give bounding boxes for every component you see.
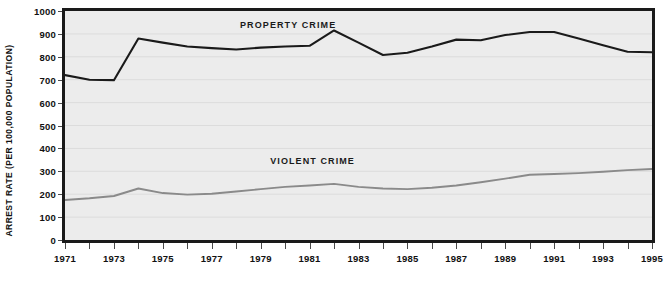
x-tick-mark	[359, 243, 360, 249]
crime-arrest-rate-chart: ARREST RATE (PER 100,000 POPULATION) 010…	[0, 0, 668, 281]
y-tick-label: 900	[20, 28, 56, 39]
x-tick-label: 1973	[103, 253, 125, 264]
plot-frame: PROPERTY CRIMEVIOLENT CRIME	[62, 8, 655, 243]
y-tick-label: 1000	[20, 6, 56, 17]
y-tick-label: 100	[20, 212, 56, 223]
x-tick-mark	[481, 243, 482, 249]
x-tick-mark	[505, 243, 506, 249]
series-line	[65, 30, 652, 80]
x-tick-mark	[163, 243, 164, 249]
x-tick-label: 1975	[152, 253, 174, 264]
x-tick-mark	[554, 243, 555, 249]
x-tick-mark	[114, 243, 115, 249]
x-tick-mark	[65, 243, 66, 249]
x-tick-label: 1987	[445, 253, 467, 264]
x-tick-mark	[310, 243, 311, 249]
x-tick-label: 1981	[299, 253, 321, 264]
x-tick-mark	[89, 243, 90, 249]
y-tick-label: 300	[20, 166, 56, 177]
y-tick-label: 200	[20, 189, 56, 200]
y-tick-label: 0	[20, 235, 56, 246]
x-tick-mark	[530, 243, 531, 249]
x-tick-label: 1977	[201, 253, 223, 264]
x-axis: 1971197319751977197919811983198519871989…	[62, 243, 655, 281]
x-tick-label: 1989	[494, 253, 516, 264]
series-label: VIOLENT CRIME	[270, 156, 355, 166]
series-label: PROPERTY CRIME	[240, 20, 336, 30]
x-tick-mark	[138, 243, 139, 249]
y-tick-label: 400	[20, 143, 56, 154]
y-axis-title: ARREST RATE (PER 100,000 POPULATION)	[0, 0, 18, 281]
x-tick-mark	[652, 243, 653, 249]
plot-area	[65, 11, 652, 240]
plot-svg	[65, 11, 652, 240]
x-tick-label: 1993	[592, 253, 614, 264]
x-tick-label: 1979	[250, 253, 272, 264]
x-tick-label: 1991	[543, 253, 565, 264]
x-tick-mark	[236, 243, 237, 249]
x-tick-label: 1971	[54, 253, 76, 264]
y-tick-label: 600	[20, 97, 56, 108]
y-tick-label: 700	[20, 74, 56, 85]
y-axis-tick-labels: 01002003004005006007008009001000	[20, 0, 56, 281]
x-tick-mark	[285, 243, 286, 249]
x-tick-mark	[579, 243, 580, 249]
x-tick-mark	[407, 243, 408, 249]
x-tick-label: 1995	[641, 253, 663, 264]
gridlines	[65, 34, 652, 217]
x-tick-mark	[628, 243, 629, 249]
x-tick-label: 1983	[348, 253, 370, 264]
x-tick-mark	[261, 243, 262, 249]
x-tick-mark	[383, 243, 384, 249]
y-tick-label: 500	[20, 120, 56, 131]
x-tick-mark	[603, 243, 604, 249]
x-tick-mark	[187, 243, 188, 249]
x-tick-mark	[334, 243, 335, 249]
y-tick-label: 800	[20, 51, 56, 62]
x-tick-mark	[456, 243, 457, 249]
x-tick-mark	[212, 243, 213, 249]
x-tick-mark	[432, 243, 433, 249]
x-tick-label: 1985	[396, 253, 418, 264]
series-line	[65, 169, 652, 200]
